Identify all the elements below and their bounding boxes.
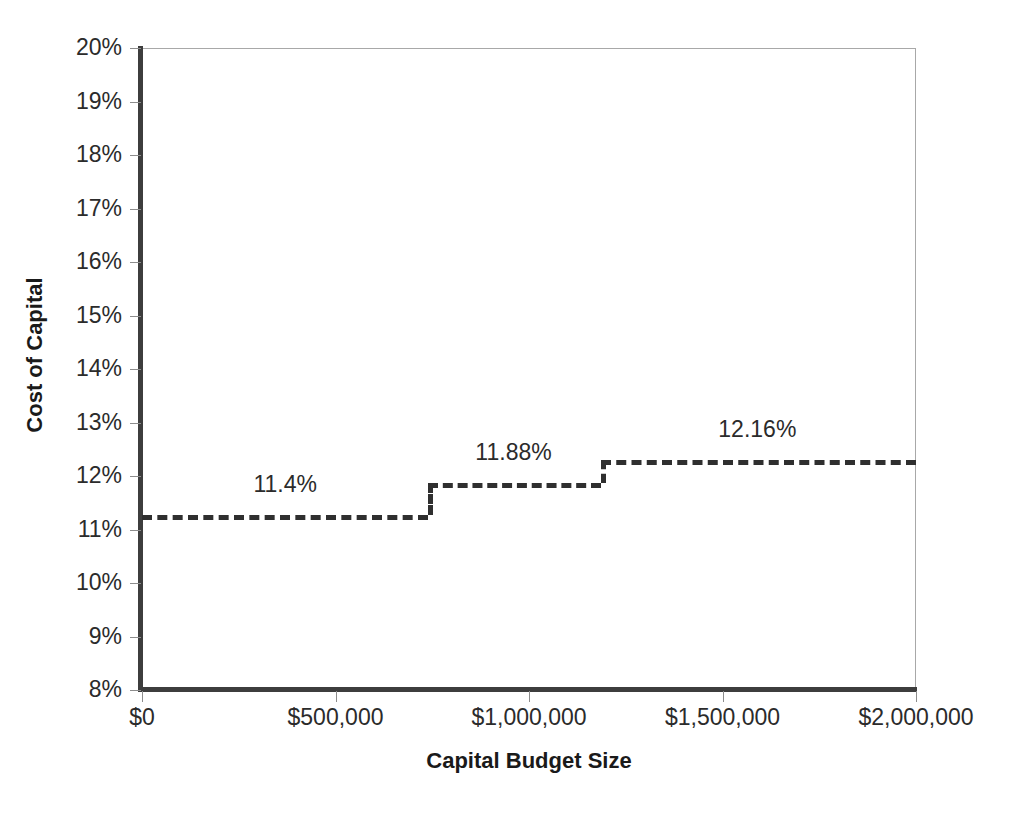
y-axis-title: Cost of Capital (22, 225, 48, 485)
y-tick-label: 14% (2, 357, 122, 380)
step-segment (142, 515, 428, 520)
y-tick-mark (130, 316, 141, 317)
step-riser (601, 460, 606, 483)
y-tick-mark (130, 476, 141, 477)
step-riser (428, 483, 433, 515)
x-axis-line (138, 687, 917, 692)
y-tick-label: 15% (2, 304, 122, 327)
y-tick-mark (130, 102, 141, 103)
step-value-label: 11.88% (475, 441, 551, 464)
step-value-label: 11.4% (253, 473, 317, 496)
x-tick-mark (916, 691, 917, 702)
x-tick-mark (142, 691, 143, 702)
step-value-label: 12.16% (718, 418, 796, 441)
x-tick-label: $1,500,000 (665, 706, 780, 729)
plot-area-frame (142, 48, 916, 690)
y-tick-mark (130, 530, 141, 531)
x-tick-mark (723, 691, 724, 702)
y-tick-mark (130, 369, 141, 370)
y-tick-label: 10% (2, 571, 122, 594)
y-tick-label: 16% (2, 250, 122, 273)
y-tick-label: 17% (2, 197, 122, 220)
x-tick-mark (336, 691, 337, 702)
y-tick-label: 20% (2, 36, 122, 59)
y-tick-label: 9% (2, 625, 122, 648)
y-tick-mark (130, 48, 141, 49)
y-tick-label: 8% (2, 678, 122, 701)
y-tick-mark (130, 423, 141, 424)
y-tick-mark (130, 209, 141, 210)
y-tick-label: 18% (2, 143, 122, 166)
y-tick-mark (130, 690, 141, 691)
y-tick-mark (130, 637, 141, 638)
chart-container: 8%9%10%11%12%13%14%15%16%17%18%19%20% $0… (0, 0, 1010, 818)
x-tick-label: $0 (129, 706, 155, 729)
y-tick-mark (130, 155, 141, 156)
y-tick-label: 12% (2, 464, 122, 487)
y-tick-label: 19% (2, 90, 122, 113)
y-tick-label: 13% (2, 411, 122, 434)
step-segment (601, 460, 916, 465)
y-tick-mark (130, 262, 141, 263)
x-axis-title: Capital Budget Size (142, 748, 916, 774)
x-tick-label: $500,000 (288, 706, 384, 729)
x-tick-label: $2,000,000 (858, 706, 973, 729)
x-tick-mark (529, 691, 530, 702)
x-tick-label: $1,000,000 (471, 706, 586, 729)
y-tick-label: 11% (2, 518, 122, 541)
step-segment (428, 483, 600, 488)
y-tick-mark (130, 583, 141, 584)
